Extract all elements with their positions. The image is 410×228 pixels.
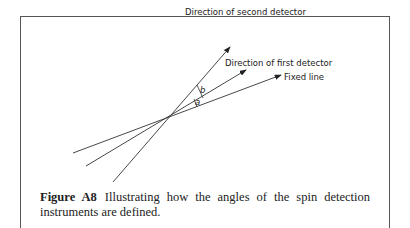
fixed-line-label: Fixed line — [284, 72, 324, 82]
angle-a-label: a — [195, 97, 200, 107]
first-detector-label: Direction of first detector — [225, 58, 333, 68]
figure-number: Figure A8 — [40, 190, 97, 204]
figure-caption: Figure A8Illustrating how the angles of … — [40, 190, 370, 220]
second-detector-label: Direction of second detector — [185, 7, 306, 17]
fixed-line — [73, 75, 281, 153]
angle-b-label: b — [200, 85, 205, 95]
